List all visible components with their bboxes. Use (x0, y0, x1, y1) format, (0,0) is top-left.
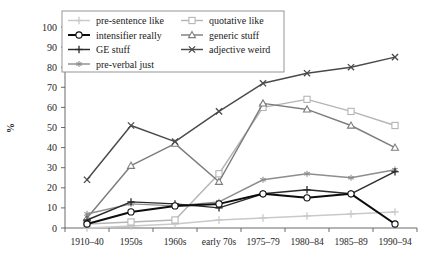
legend-label: generic stuff (209, 30, 260, 41)
x-tick-label: 1960s (164, 237, 187, 247)
data-point-marker-circle (392, 221, 398, 227)
data-point-marker-circle (172, 203, 178, 209)
y-tick-label: 100 (42, 22, 57, 33)
x-tick-label: 1990–94 (378, 237, 412, 247)
series-plot-area (83, 54, 398, 232)
data-point-marker-plus (391, 168, 398, 175)
y-tick-label: 90 (47, 42, 57, 53)
data-point-marker-circle (76, 32, 82, 38)
data-point-marker-triangle (260, 100, 267, 106)
y-axis-title: % (5, 123, 16, 133)
data-point-marker-square (216, 171, 222, 177)
legend-label: adjective weird (209, 44, 270, 55)
data-point-marker-plus (303, 186, 310, 193)
data-point-marker-x (84, 177, 90, 183)
y-tick-label: 60 (47, 102, 57, 113)
y-tick-label: 30 (47, 162, 57, 173)
y-tick-label: 80 (47, 62, 57, 73)
data-point-marker-plus (347, 210, 354, 217)
legend-label: GE stuff (96, 44, 131, 55)
line-chart-figure: % 0102030405060708090100 1910–401950s196… (0, 0, 424, 259)
data-point-marker-plus (391, 208, 398, 215)
y-tick-label: 70 (47, 82, 57, 93)
data-point-marker-x (216, 108, 222, 114)
x-tick-label: 1985–89 (334, 237, 368, 247)
data-point-marker-square (172, 217, 178, 223)
x-axis: 1910–401950s1960searly 70s1975–791980–84… (65, 228, 417, 247)
x-tick-label: 1975–79 (246, 237, 280, 247)
data-point-marker-circle (216, 201, 222, 207)
data-point-marker-square (128, 219, 134, 225)
data-point-marker-circle (348, 191, 354, 197)
data-point-marker-plus (215, 216, 222, 223)
data-point-marker-circle (84, 221, 90, 227)
x-tick-label: 1910–40 (70, 237, 104, 247)
data-point-marker-square (348, 108, 354, 114)
data-point-marker-square (392, 122, 398, 128)
series-line (87, 57, 395, 180)
x-tick-label: early 70s (202, 237, 237, 247)
y-tick-label: 10 (47, 202, 57, 213)
data-point-marker-square (304, 96, 310, 102)
x-tick-label: 1950s (120, 237, 143, 247)
legend-label: pre-sentence like (96, 15, 165, 26)
y-tick-label: 40 (47, 142, 57, 153)
legend-label: intensifier really (96, 30, 162, 41)
data-point-marker-x (128, 122, 134, 128)
data-point-marker-circle (260, 191, 266, 197)
data-point-marker-plus (259, 214, 266, 221)
y-tick-label: 20 (47, 182, 57, 193)
x-tick-label: 1980–84 (290, 237, 324, 247)
legend-label: pre-verbal just (96, 59, 154, 70)
chart-canvas: % 0102030405060708090100 1910–401950s196… (0, 0, 424, 259)
data-point-marker-circle (304, 195, 310, 201)
data-point-marker-circle (128, 209, 134, 215)
chart-legend: pre-sentence likequotative likeintensifi… (62, 11, 284, 72)
data-point-marker-square (189, 17, 195, 23)
y-tick-label: 50 (47, 122, 57, 133)
data-point-marker-plus (303, 212, 310, 219)
y-axis-title-group: % (5, 123, 16, 133)
legend-label: quotative like (209, 15, 264, 26)
y-tick-label: 0 (52, 223, 57, 234)
